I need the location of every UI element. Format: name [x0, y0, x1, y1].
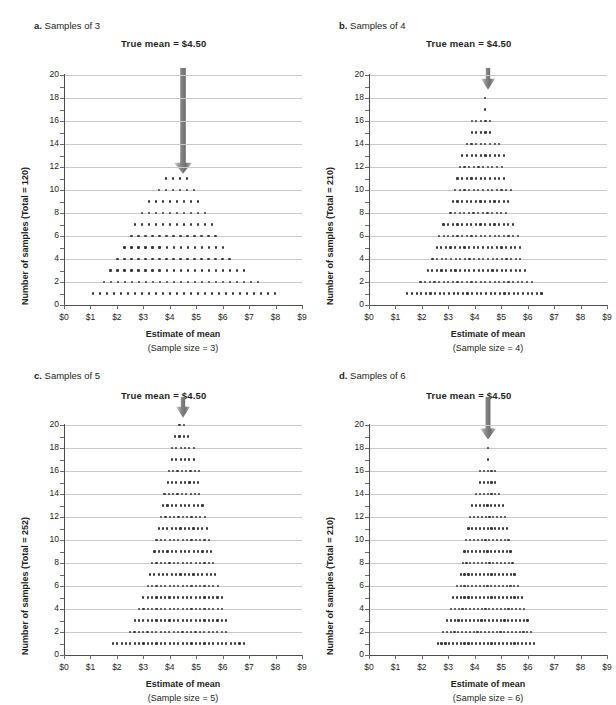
data-dot [453, 631, 455, 633]
data-dot [492, 608, 494, 610]
data-dot [452, 235, 454, 237]
data-dot [467, 527, 469, 529]
data-dot [481, 608, 483, 610]
data-dot [477, 246, 479, 248]
data-dot [511, 562, 513, 564]
data-dot [521, 281, 523, 283]
data-dot [478, 269, 480, 271]
data-dot [517, 596, 519, 598]
data-dot [500, 562, 502, 564]
data-dot [465, 631, 467, 633]
data-dot [494, 504, 496, 506]
data-dot [162, 573, 164, 575]
data-dot [494, 154, 496, 156]
data-dot [222, 281, 224, 283]
data-dot [239, 292, 241, 294]
data-dot [511, 608, 513, 610]
data-dot [510, 596, 512, 598]
data-dot [158, 269, 160, 271]
data-dot [440, 642, 442, 644]
data-dot [186, 596, 188, 598]
data-dot [142, 619, 144, 621]
data-dot [215, 269, 217, 271]
data-dot [496, 258, 498, 260]
data-dot [187, 269, 189, 271]
data-dot [419, 281, 421, 283]
data-dot [519, 619, 521, 621]
data-dot [190, 596, 192, 598]
data-dot [169, 212, 171, 214]
data-dot [175, 504, 177, 506]
data-dot [155, 619, 157, 621]
data-dot [468, 212, 470, 214]
data-dot [208, 539, 210, 541]
data-dot [487, 642, 489, 644]
data-dot [142, 608, 144, 610]
data-dot [484, 120, 486, 122]
data-dot [190, 212, 192, 214]
data-dot [201, 527, 203, 529]
data-dot [166, 269, 168, 271]
data-dot [188, 481, 190, 483]
data-dot [496, 212, 498, 214]
data-dot [186, 258, 188, 260]
data-dot [501, 258, 503, 260]
data-dot [522, 292, 524, 294]
data-dot [472, 212, 474, 214]
data-dot [171, 550, 173, 552]
data-dot [164, 608, 166, 610]
data-dot [228, 258, 230, 260]
data-dot [177, 516, 179, 518]
data-dot [424, 281, 426, 283]
data-dot [525, 642, 527, 644]
data-dot [475, 143, 477, 145]
data-dot [519, 608, 521, 610]
data-dot [507, 200, 509, 202]
data-dot [215, 246, 217, 248]
data-dot [155, 562, 157, 564]
data-dot [496, 189, 498, 191]
data-dot [469, 619, 471, 621]
data-dot [454, 608, 456, 610]
data-dot [515, 619, 517, 621]
data-dot [176, 292, 178, 294]
data-dot [144, 235, 146, 237]
data-dot [195, 562, 197, 564]
data-dot [475, 281, 477, 283]
data-dot [484, 631, 486, 633]
data-dot [459, 212, 461, 214]
data-dot [442, 223, 444, 225]
data-dot [212, 585, 214, 587]
data-dot [203, 585, 205, 587]
data-dot [192, 573, 194, 575]
data-dot [515, 269, 517, 271]
data-dot [471, 504, 473, 506]
data-dot [489, 177, 491, 179]
data-dot [169, 642, 171, 644]
data-dot [184, 550, 186, 552]
data-dot [179, 189, 181, 191]
data-dot [524, 269, 526, 271]
data-dot [208, 281, 210, 283]
data-dot [238, 642, 240, 644]
data-dot [208, 585, 210, 587]
data-dot [490, 550, 492, 552]
data-dot [167, 481, 169, 483]
data-dot [194, 281, 196, 283]
data-dot [197, 504, 199, 506]
data-dot [203, 562, 205, 564]
data-dot [173, 246, 175, 248]
data-dot [506, 573, 508, 575]
dot-layer-d [317, 370, 616, 690]
data-dot [155, 596, 157, 598]
data-dot [194, 631, 196, 633]
data-dot [450, 619, 452, 621]
data-dot [503, 631, 505, 633]
data-dot [498, 504, 500, 506]
data-dot [142, 642, 144, 644]
data-dot [456, 585, 458, 587]
data-dot [162, 212, 164, 214]
data-dot [466, 154, 468, 156]
data-dot [406, 292, 408, 294]
data-dot [505, 212, 507, 214]
